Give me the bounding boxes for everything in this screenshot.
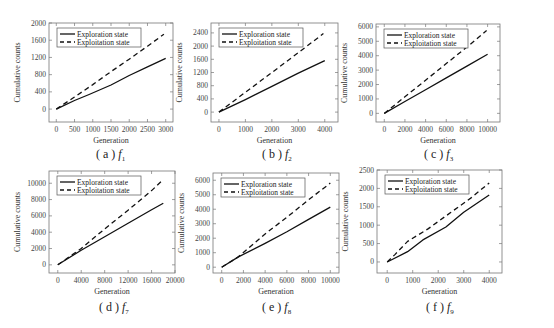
- y-tick-label: 1000: [195, 248, 210, 257]
- legend: Exploration stateExploitation state: [385, 175, 469, 194]
- y-tick-label: 2000: [195, 234, 210, 243]
- legend-entry: Exploitation state: [405, 185, 458, 194]
- legend: Exploration stateExploitation state: [57, 176, 141, 195]
- legend: Exploration stateExploitation state: [57, 28, 141, 47]
- x-axis-label: Generation: [94, 287, 130, 296]
- y-tick-label: 6000: [358, 22, 373, 31]
- x-tick-label: 8000: [301, 276, 316, 285]
- y-tick-label: 4000: [195, 205, 210, 214]
- x-tick-label: 0: [56, 276, 60, 285]
- x-tick-label: 3000: [291, 125, 306, 134]
- x-axis-label: Generation: [422, 287, 458, 296]
- exploration-line: [56, 58, 165, 109]
- y-tick-label: 0: [206, 263, 210, 272]
- x-tick-label: 10000: [321, 276, 340, 285]
- y-axis-label: Cumulative counts: [340, 43, 349, 103]
- x-tick-label: 3000: [158, 125, 173, 134]
- legend-entry: Exploitation state: [239, 38, 292, 47]
- exploration-line: [222, 207, 331, 267]
- y-tick-label: 2000: [359, 184, 374, 193]
- x-tick-label: 1000: [405, 276, 420, 285]
- legend-entry: Exploitation state: [241, 188, 294, 197]
- legend-entry: Exploitation state: [77, 186, 130, 195]
- x-axis-label: Generation: [257, 136, 293, 145]
- legend-entry: Exploitation state: [404, 39, 457, 48]
- x-tick-label: 8000: [97, 276, 112, 285]
- y-tick-label: 1500: [359, 202, 374, 211]
- y-tick-label: 0: [42, 105, 46, 114]
- figure-canvas: 0500100015002000250030000400800120016002…: [0, 0, 554, 328]
- y-tick-label: 6000: [31, 211, 46, 220]
- y-tick-label: 0: [204, 108, 208, 117]
- x-tick-label: 1000: [238, 125, 253, 134]
- y-tick-label: 2000: [193, 42, 208, 51]
- x-tick-label: 1000: [85, 125, 100, 134]
- y-tick-label: 800: [197, 81, 209, 90]
- y-tick-label: 8000: [31, 195, 46, 204]
- x-tick-label: 2000: [431, 276, 446, 285]
- y-tick-label: 2000: [358, 80, 373, 89]
- y-tick-label: 1600: [193, 55, 208, 64]
- x-axis-label: Generation: [258, 287, 294, 296]
- y-tick-label: 3000: [195, 219, 210, 228]
- exploration-line: [58, 203, 164, 265]
- y-axis-label: Cumulative counts: [177, 193, 186, 253]
- caption-e: ( e ) f8: [262, 300, 291, 316]
- exploration-line: [219, 61, 325, 113]
- x-tick-label: 10000: [478, 125, 497, 134]
- y-axis-label: Cumulative counts: [175, 42, 184, 102]
- x-tick-label: 2000: [397, 125, 412, 134]
- x-tick-label: 2000: [236, 276, 251, 285]
- y-tick-label: 0: [42, 260, 46, 269]
- x-tick-label: 12000: [119, 276, 138, 285]
- y-tick-label: 2000: [31, 244, 46, 253]
- x-tick-label: 1500: [104, 125, 119, 134]
- x-tick-label: 4000: [258, 276, 273, 285]
- y-tick-label: 500: [363, 239, 375, 248]
- y-tick-label: 1000: [359, 221, 374, 230]
- y-axis-label: Cumulative counts: [13, 42, 22, 102]
- y-tick-label: 10000: [27, 179, 46, 188]
- y-tick-label: 3000: [358, 66, 373, 75]
- y-axis-label: Cumulative counts: [13, 192, 22, 252]
- chart-panel-a: 0500100015002000250030000400800120016002…: [13, 19, 173, 146]
- x-axis-label: Generation: [93, 136, 129, 145]
- y-tick-label: 1600: [31, 36, 46, 45]
- x-tick-label: 0: [54, 125, 58, 134]
- caption-b: ( b ) f2: [262, 147, 292, 163]
- caption-f: ( f ) f9: [426, 300, 454, 316]
- y-tick-label: 5000: [358, 37, 373, 46]
- y-tick-label: 400: [35, 87, 47, 96]
- x-tick-label: 4000: [482, 276, 497, 285]
- y-axis-label: Cumulative counts: [341, 191, 350, 251]
- y-tick-label: 1200: [31, 53, 46, 62]
- caption-d: ( d ) f7: [99, 300, 129, 316]
- legend: Exploration stateExploitation state: [219, 28, 303, 47]
- caption-a: ( a ) f1: [96, 147, 125, 163]
- y-tick-label: 5000: [195, 190, 210, 199]
- exploration-line: [387, 195, 489, 262]
- x-tick-label: 6000: [439, 125, 454, 134]
- y-tick-label: 4000: [31, 228, 46, 237]
- x-tick-label: 2000: [264, 125, 279, 134]
- y-tick-label: 2400: [193, 28, 208, 37]
- chart-panel-f: 0100020003000400005001000150020002500Gen…: [341, 166, 502, 297]
- x-tick-label: 2500: [140, 125, 155, 134]
- legend-entry: Exploitation state: [77, 38, 130, 47]
- x-tick-label: 0: [220, 276, 224, 285]
- y-tick-label: 0: [369, 109, 373, 118]
- x-axis-label: Generation: [420, 136, 456, 145]
- x-tick-label: 2000: [122, 125, 137, 134]
- x-tick-label: 4000: [74, 276, 89, 285]
- exploration-line: [384, 54, 487, 113]
- legend: Exploration stateExploitation state: [384, 29, 468, 48]
- chart-panel-c: 0200040006000800010000010002000300040005…: [340, 22, 500, 145]
- y-tick-label: 0: [370, 257, 374, 266]
- x-tick-label: 6000: [279, 276, 294, 285]
- y-tick-label: 800: [35, 70, 47, 79]
- x-tick-label: 0: [385, 276, 389, 285]
- x-tick-label: 8000: [459, 125, 474, 134]
- exploitation-line: [387, 183, 489, 262]
- chart-panel-d: 0400080001200016000200000200040006000800…: [13, 171, 185, 296]
- chart-panel-b: 0100020003000400004008001200160020002400…: [175, 23, 338, 145]
